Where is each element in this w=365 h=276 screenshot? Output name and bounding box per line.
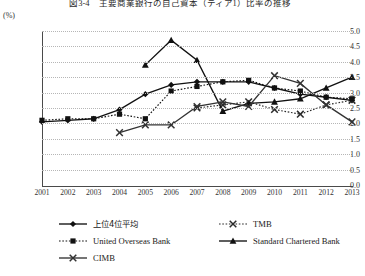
legend-swatch	[58, 235, 88, 247]
legend-marker-square-icon	[58, 235, 88, 247]
legend-item[interactable]: 上位4位平均	[58, 218, 138, 230]
gridline	[42, 139, 352, 140]
legend-item[interactable]: United Overseas Bank	[58, 235, 170, 247]
legend-label: Standard Chartered Bank	[253, 235, 340, 247]
legend-marker-diamond-icon	[58, 218, 88, 230]
gridline	[42, 108, 352, 109]
y-axis-unit-label: (%)	[3, 11, 15, 20]
y-axis-tick-label: 5.0	[322, 27, 360, 36]
gridline	[42, 62, 352, 63]
legend-swatch	[58, 252, 88, 264]
gridline	[42, 46, 352, 47]
gridline	[42, 31, 352, 32]
legend-marker-triangle-icon	[218, 235, 248, 247]
y-axis-tick-label: 3.5	[322, 73, 360, 82]
gridline	[42, 93, 352, 94]
chart-title: 図3-4 主要商業銀行の自己資本（ティア1）比率の推移	[0, 0, 360, 8]
legend-item[interactable]: TMB	[218, 218, 272, 230]
y-axis-tick-label: 2.0	[322, 119, 360, 128]
legend-item[interactable]: Standard Chartered Bank	[218, 235, 340, 247]
data-series	[39, 78, 354, 123]
y-axis-tick-label: 3.0	[322, 88, 360, 97]
gridline	[42, 123, 352, 124]
y-axis-tick-label: 1.0	[322, 150, 360, 159]
x-axis-tick-label: 2013	[335, 188, 365, 197]
legend-label: United Overseas Bank	[93, 235, 170, 247]
y-axis-tick-label: 0.5	[322, 165, 360, 174]
legend-swatch	[58, 218, 88, 230]
legend-label: 上位4位平均	[93, 218, 138, 230]
legend-swatch	[218, 235, 248, 247]
y-axis-tick-label: 4.0	[322, 57, 360, 66]
y-axis-tick-label: 2.5	[322, 104, 360, 113]
legend-marker-x-icon	[58, 252, 88, 264]
gridline	[42, 77, 352, 78]
legend-item[interactable]: CIMB	[58, 252, 115, 264]
legend-marker-x-icon	[218, 218, 248, 230]
y-axis-tick-label: 1.5	[322, 134, 360, 143]
chart-legend: 上位4位平均TMBUnited Overseas BankStandard Ch…	[0, 218, 360, 276]
plot-area	[42, 31, 352, 185]
gridline	[42, 154, 352, 155]
legend-label: CIMB	[93, 252, 115, 264]
legend-label: TMB	[253, 218, 272, 230]
x-axis-line	[42, 186, 353, 187]
gridline	[42, 170, 352, 171]
legend-swatch	[218, 218, 248, 230]
y-axis-tick-label: 4.5	[322, 42, 360, 51]
